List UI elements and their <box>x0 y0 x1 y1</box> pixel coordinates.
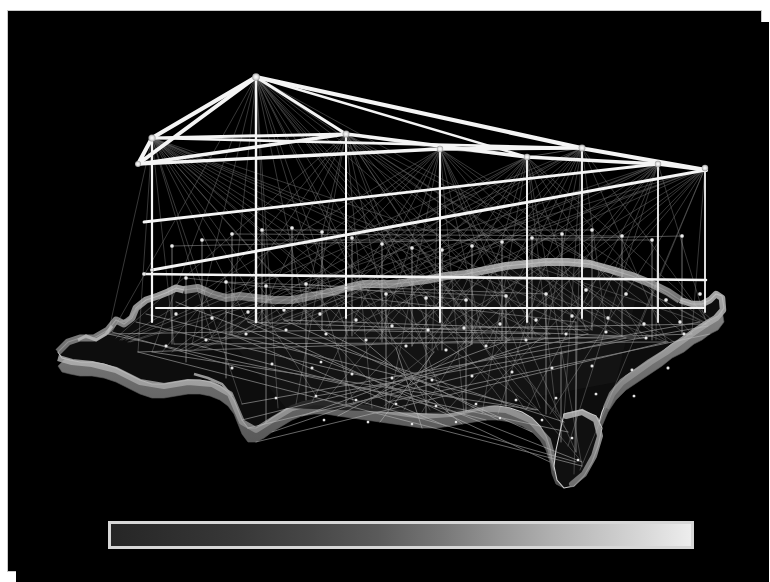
figure-page: 3D network visualization over United Sta… <box>0 0 770 582</box>
hull-long-beam-7 <box>256 77 527 157</box>
network-map-graphic <box>16 22 769 582</box>
figure-frame: 3D network visualization over United Sta… <box>7 10 762 572</box>
grayscale-intensity-colorbar[interactable] <box>108 521 694 549</box>
visualization-canvas: 3D network visualization over United Sta… <box>16 22 769 582</box>
colorbar-container[interactable] <box>108 521 694 549</box>
